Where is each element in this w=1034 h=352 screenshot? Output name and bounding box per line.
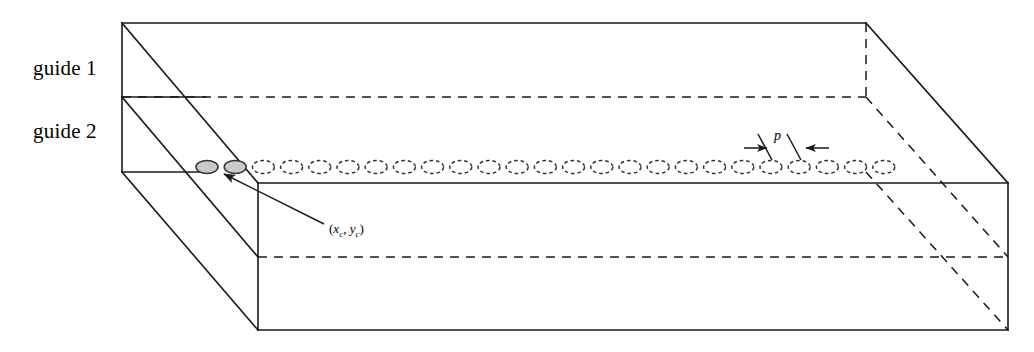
figure-canvas: guide 1 guide 2 (xc, yc) p <box>0 0 1034 352</box>
hole-dashed <box>393 161 415 174</box>
hole-dashed <box>337 161 359 174</box>
hole-dashed <box>591 161 613 174</box>
hole-dashed <box>619 161 641 174</box>
hole-dashed <box>450 161 472 174</box>
guide-2-label: guide 2 <box>33 119 97 144</box>
edge-top-back <box>866 23 1008 183</box>
hole-dashed <box>816 161 838 174</box>
coord-close-paren: ) <box>359 221 363 236</box>
hole-dashed <box>309 161 331 174</box>
hole-dashed <box>563 161 585 174</box>
hole-dashed <box>845 161 867 174</box>
hole-dashed <box>506 161 528 174</box>
hidden-back-edges <box>122 23 1008 330</box>
center-coordinate-label: (xc, yc) <box>329 221 364 239</box>
edge-diagonal-divider-left <box>122 97 258 257</box>
pitch-dimension-marker <box>744 134 829 160</box>
hole-dashed <box>788 161 810 174</box>
hole-dashed <box>760 161 782 174</box>
hole-filled <box>196 161 218 174</box>
edge-diagonal-bottom-left <box>122 172 258 330</box>
center-coordinate-leader <box>224 174 324 224</box>
pitch-label: p <box>774 128 781 144</box>
hole-dashed <box>252 161 274 174</box>
hole-dashed <box>365 161 387 174</box>
hole-dashed <box>704 161 726 174</box>
hole-row <box>196 161 895 174</box>
hole-dashed <box>478 161 500 174</box>
hole-filled <box>224 161 246 174</box>
hole-dashed <box>873 161 895 174</box>
coord-leader-line <box>224 174 324 224</box>
waveguide-3d-schematic <box>0 0 1034 352</box>
hole-dashed <box>534 161 556 174</box>
hole-dashed <box>647 161 669 174</box>
hidden-edge-diagonal-upper <box>866 97 1008 257</box>
pitch-leader-left <box>758 134 772 160</box>
hole-dashed <box>732 161 754 174</box>
pitch-leader-right <box>787 134 801 160</box>
edge-diagonal-top-left <box>122 23 258 183</box>
solid-edges <box>122 23 1008 330</box>
hidden-edge-diagonal-lower <box>866 172 1008 330</box>
hole-dashed <box>281 161 303 174</box>
hole-dashed <box>675 161 697 174</box>
guide-1-label: guide 1 <box>33 56 97 81</box>
hole-dashed <box>422 161 444 174</box>
